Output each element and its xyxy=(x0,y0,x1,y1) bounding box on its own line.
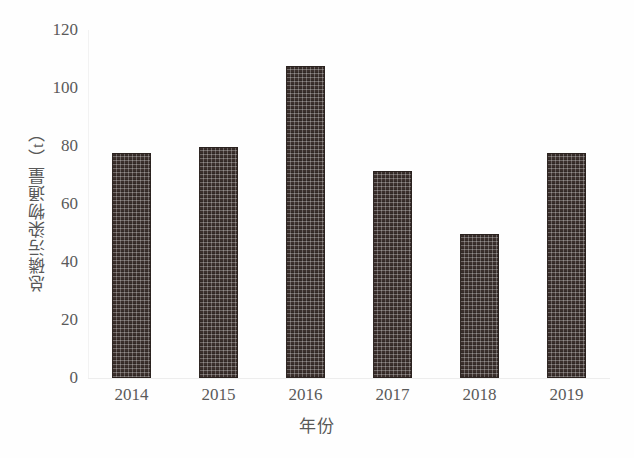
x-tick-label: 2017 xyxy=(349,385,436,405)
bar xyxy=(112,153,151,378)
y-tick-label: 20 xyxy=(61,310,78,330)
bar-group: 2015 xyxy=(175,30,262,378)
chart-page: 总磷污染物通量（t） 020406080100120 2014201520162… xyxy=(0,0,634,458)
y-axis-title: 总磷污染物通量（t） xyxy=(26,78,50,338)
bar-group: 2017 xyxy=(349,30,436,378)
x-axis-line xyxy=(88,378,610,379)
y-tick-label: 100 xyxy=(53,78,79,98)
x-tick-label: 2016 xyxy=(262,385,349,405)
plot-area: 020406080100120 201420152016201720182019 xyxy=(88,30,610,378)
y-tick-label: 120 xyxy=(53,20,79,40)
bar xyxy=(547,153,586,378)
bar xyxy=(286,66,325,378)
x-tick-label: 2015 xyxy=(175,385,262,405)
bar-group: 2018 xyxy=(436,30,523,378)
bar-group: 2014 xyxy=(88,30,175,378)
bar xyxy=(373,171,412,378)
x-tick-label: 2014 xyxy=(88,385,175,405)
bar xyxy=(199,147,238,378)
y-tick-label: 80 xyxy=(61,136,78,156)
bar-group: 2019 xyxy=(523,30,610,378)
y-tick-label: 60 xyxy=(61,194,78,214)
y-tick-label: 40 xyxy=(61,252,78,272)
x-tick-label: 2018 xyxy=(436,385,523,405)
bar xyxy=(460,234,499,378)
x-axis-title: 年份 xyxy=(0,412,634,437)
y-tick-label: 0 xyxy=(70,368,79,388)
bar-group: 2016 xyxy=(262,30,349,378)
x-tick-label: 2019 xyxy=(523,385,610,405)
